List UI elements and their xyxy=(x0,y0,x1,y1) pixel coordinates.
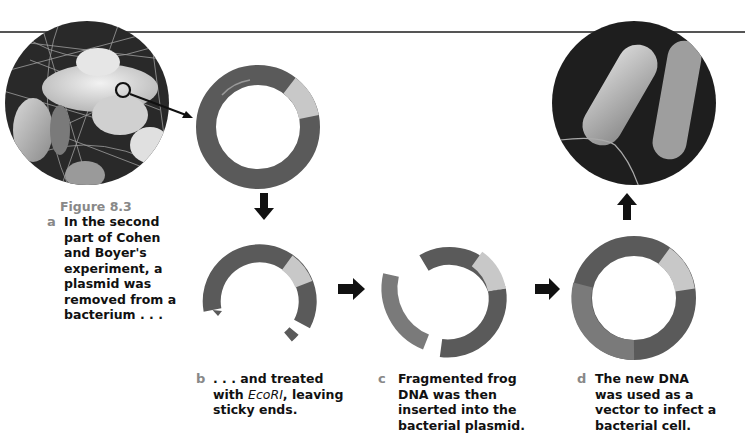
step-letter-c: c xyxy=(378,371,386,386)
down-arrow-icon xyxy=(254,193,274,220)
caption-a: In the second part of Cohen and Boyer's … xyxy=(64,214,184,323)
caption-b: . . . and treated with EcoRI, leaving st… xyxy=(213,371,353,418)
plasmid-intact xyxy=(206,75,310,179)
step-letter-a: a xyxy=(47,214,56,229)
plasmid-cut xyxy=(212,253,308,337)
plasmid-with-fragments xyxy=(389,256,497,349)
step-letter-d: d xyxy=(577,371,586,386)
right-arrow-icon xyxy=(338,278,365,300)
caption-d: The new DNA was used as a vector to infe… xyxy=(595,371,735,433)
figure-title: Figure 8.3 xyxy=(60,199,132,214)
enzyme-name: EcoRI xyxy=(248,387,283,402)
right-arrow-icon xyxy=(535,278,560,300)
caption-c: Fragmented frog DNA was then inserted in… xyxy=(398,371,548,433)
bacterium-micrograph-right xyxy=(550,20,720,190)
bacteria-micrograph-left xyxy=(0,15,175,190)
step-letter-b: b xyxy=(196,371,205,386)
plasmid-recombinant xyxy=(581,246,686,350)
up-arrow-icon xyxy=(617,193,637,220)
